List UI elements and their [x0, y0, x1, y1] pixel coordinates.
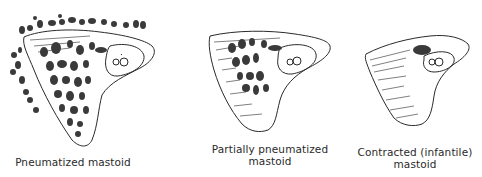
caption-partially-pneumatized-mastoid: Partially pneumatized mastoid: [210, 143, 330, 167]
caption-contracted-mastoid: Contracted (infantile) mastoid: [352, 146, 478, 170]
caption-line: Contracted (infantile): [352, 146, 478, 158]
caption-pneumatized-mastoid: Pneumatized mastoid: [8, 156, 138, 168]
pneumatized-mastoid-illustration: [0, 0, 180, 177]
caption-line: Partially pneumatized: [210, 143, 330, 155]
caption-line: Pneumatized mastoid: [15, 156, 131, 168]
caption-line: mastoid: [210, 155, 330, 167]
panel-partially-pneumatized-mastoid: Partially pneumatized mastoid: [180, 0, 350, 177]
panel-contracted-mastoid: Contracted (infantile) mastoid: [340, 0, 482, 177]
caption-line: mastoid: [352, 158, 478, 170]
antrum-shading: [413, 45, 431, 55]
panel-pneumatized-mastoid: Pneumatized mastoid: [0, 0, 180, 177]
